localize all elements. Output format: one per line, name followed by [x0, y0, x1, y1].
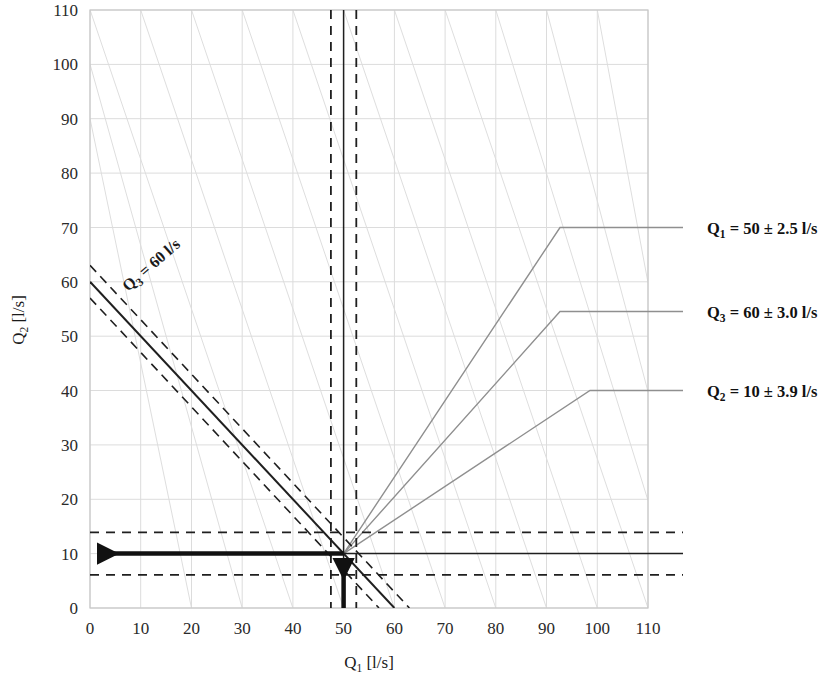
- x-axis-title: Q1 [l/s]: [344, 653, 394, 674]
- y-axis-title: Q2 [l/s]: [9, 295, 30, 345]
- y-tick-50: 50: [61, 327, 78, 346]
- legend-q1-main: Q: [707, 219, 720, 238]
- y-tick-0: 0: [70, 599, 79, 618]
- x-tick-90: 90: [538, 619, 555, 638]
- y-tick-110: 110: [53, 1, 78, 20]
- x-tick-10: 10: [132, 619, 149, 638]
- x-tick-100: 100: [585, 619, 611, 638]
- y-tick-30: 30: [61, 436, 78, 455]
- y-tick-90: 90: [61, 110, 78, 129]
- x-tick-110: 110: [636, 619, 661, 638]
- x-tick-40: 40: [284, 619, 301, 638]
- svg-text:Q2 [l/s]: Q2 [l/s]: [9, 295, 30, 345]
- legend-q2-rest: = 10 ± 3.9 l/s: [726, 382, 818, 401]
- x-tick-70: 70: [437, 619, 454, 638]
- y-axis-title-main: Q: [9, 333, 28, 345]
- x-tick-0: 0: [86, 619, 95, 638]
- legend-q1-rest: = 50 ± 2.5 l/s: [726, 219, 818, 238]
- x-tick-30: 30: [234, 619, 251, 638]
- x-tick-80: 80: [487, 619, 504, 638]
- y-tick-80: 80: [61, 164, 78, 183]
- y-tick-10: 10: [61, 545, 78, 564]
- x-tick-60: 60: [386, 619, 403, 638]
- y-tick-70: 70: [61, 219, 78, 238]
- plot-area: [90, 10, 648, 608]
- y-tick-40: 40: [61, 382, 78, 401]
- legend-q3-rest: = 60 ± 3.0 l/s: [726, 303, 818, 322]
- plot-background: [90, 10, 648, 608]
- y-tick-20: 20: [61, 490, 78, 509]
- y-tick-100: 100: [53, 55, 79, 74]
- chart-svg: Q3 = 60 l/s 0 10 20 30 40 50 60 70 80 90…: [0, 0, 834, 678]
- y-tick-60: 60: [61, 273, 78, 292]
- chart-figure: Q3 = 60 l/s 0 10 20 30 40 50 60 70 80 90…: [0, 0, 834, 678]
- legend-q3-main: Q: [707, 303, 720, 322]
- x-axis-title-main: Q: [344, 653, 356, 672]
- x-tick-50: 50: [335, 619, 352, 638]
- x-tick-20: 20: [183, 619, 200, 638]
- y-axis-title-unit: [l/s]: [9, 295, 28, 327]
- x-axis-title-unit: [l/s]: [362, 653, 394, 672]
- legend-q2-main: Q: [707, 382, 720, 401]
